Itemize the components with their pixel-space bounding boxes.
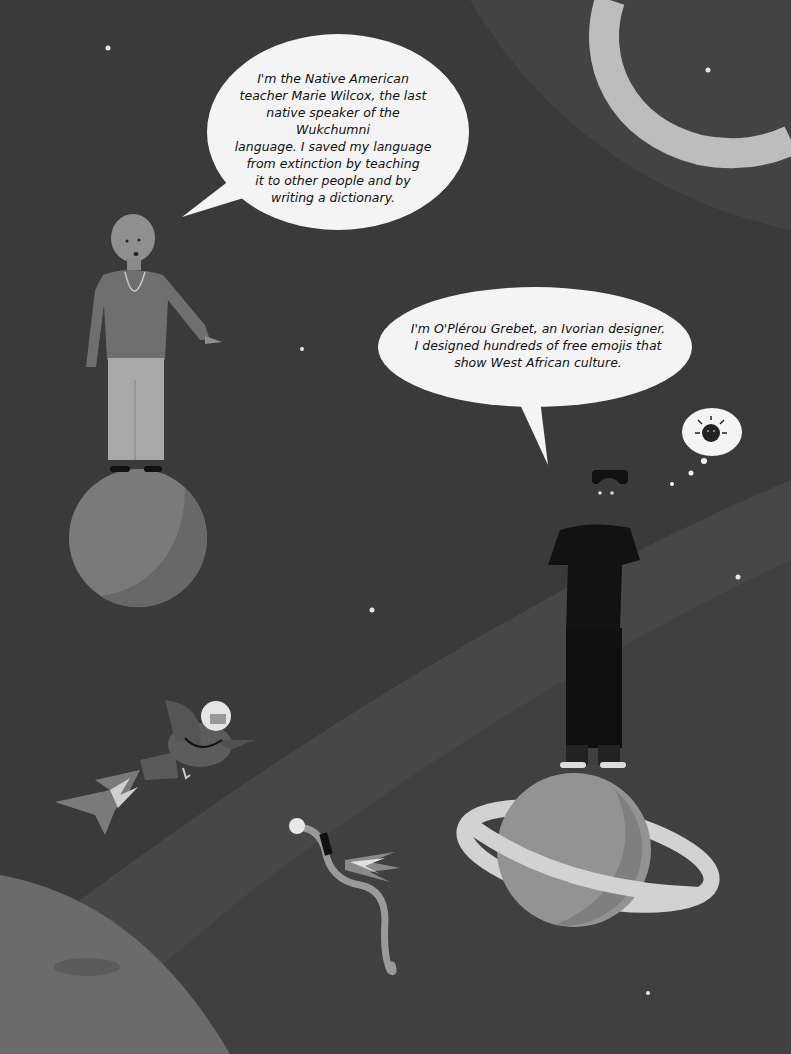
speech-line: writing a dictionary. [228, 189, 438, 206]
speech-text-oplerou: I'm O'Plérou Grebet, an Ivorian designer… [398, 320, 678, 371]
speech-line: it to other people and by [228, 172, 438, 189]
speech-line: I designed hundreds of free emojis that [398, 337, 678, 354]
planet-left [69, 469, 207, 607]
speech-line: show West African culture. [398, 354, 678, 371]
head [111, 214, 155, 262]
speech-line: native speaker of the Wukchumni [228, 104, 438, 138]
speech-line: language. I saved my language [228, 138, 438, 155]
speech-line: I'm the Native American [228, 70, 438, 87]
head [594, 478, 624, 514]
speech-line: I'm O'Plérou Grebet, an Ivorian designer… [398, 320, 678, 337]
illustration-scene: I'm the Native American teacher Marie Wi… [0, 0, 791, 1054]
pants [566, 628, 622, 748]
speech-text-marie: I'm the Native American teacher Marie Wi… [228, 70, 438, 206]
speech-line: teacher Marie Wilcox, the last [228, 87, 438, 104]
speech-line: from extinction by teaching [228, 155, 438, 172]
